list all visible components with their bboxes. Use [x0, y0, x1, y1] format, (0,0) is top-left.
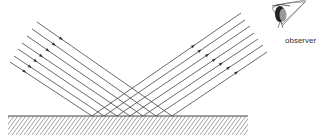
- eye-icon: [272, 0, 306, 28]
- reflection-diagram: [0, 0, 325, 140]
- surface-hatching: [0, 116, 278, 135]
- light-rays: [10, 13, 267, 116]
- observer-label: observer: [285, 36, 316, 45]
- ray-direction-arrows: [22, 37, 239, 75]
